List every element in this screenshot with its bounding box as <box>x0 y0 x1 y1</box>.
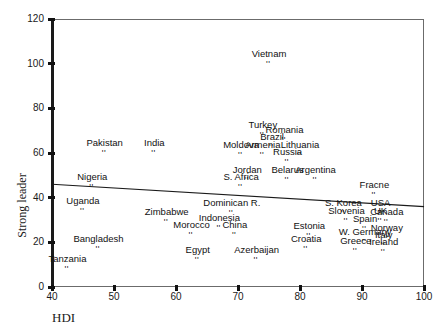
x-axis-title: HDI <box>52 310 75 326</box>
x-tick-label: 90 <box>342 291 382 302</box>
data-point-marker: '' <box>353 247 357 256</box>
data-point-marker: '' <box>151 149 155 158</box>
data-point-marker: '' <box>285 176 289 185</box>
data-point-marker: '' <box>381 248 385 257</box>
x-tick-label: 70 <box>218 291 258 302</box>
data-point-marker: '' <box>266 60 270 69</box>
y-tick-label: 100 <box>4 59 44 69</box>
data-point-label: India <box>144 138 165 148</box>
data-point-marker: '' <box>80 207 84 216</box>
data-point-marker: '' <box>313 176 317 185</box>
y-tick-mark <box>48 196 55 199</box>
x-tick-label: 80 <box>280 291 320 302</box>
data-point-marker: '' <box>65 265 69 274</box>
y-axis-title: Strong leader <box>15 156 30 256</box>
data-point-marker: '' <box>216 224 220 233</box>
data-point-label: Argentina <box>295 165 336 175</box>
scatter-chart: 020406080100120 405060708090100 ''Vietna… <box>0 0 438 332</box>
data-point-label: Croatia <box>291 234 322 244</box>
data-point-marker: '' <box>89 183 93 192</box>
y-tick-mark <box>48 152 55 155</box>
data-point-marker: '' <box>344 217 348 226</box>
data-point-label: Egypt <box>186 245 210 255</box>
data-point-marker: '' <box>254 256 258 265</box>
data-point-marker: '' <box>238 151 242 160</box>
data-point-label: Azerbaijan <box>234 245 279 255</box>
data-point-marker: '' <box>164 218 168 227</box>
data-point-label: Ireland <box>369 237 398 247</box>
x-tick-label: 100 <box>404 291 438 302</box>
y-tick-mark <box>48 241 55 244</box>
data-point-marker: '' <box>96 245 100 254</box>
data-point-label: Russia <box>273 147 302 157</box>
data-point-label: Greece <box>340 236 371 246</box>
data-point-label: Dominican R. <box>203 198 260 208</box>
data-point-label: S. Africa <box>223 172 258 182</box>
data-point-marker: '' <box>232 231 236 240</box>
y-tick-mark <box>48 107 55 110</box>
data-point-label: Vietnam <box>252 49 287 59</box>
data-point-label: Nigeria <box>77 172 107 182</box>
y-tick-label: 120 <box>4 14 44 24</box>
data-point-marker: '' <box>195 256 199 265</box>
data-point-label: Estonia <box>293 221 325 231</box>
x-tick-label: 50 <box>94 291 134 302</box>
data-point-marker: '' <box>102 149 106 158</box>
data-point-label: Fracne <box>360 180 390 190</box>
data-point-label: Zimbabwe <box>145 207 189 217</box>
data-point-label: Bangladesh <box>73 234 123 244</box>
data-point-marker: '' <box>303 245 307 254</box>
x-tick-label: 40 <box>32 291 72 302</box>
data-point-marker: '' <box>189 231 193 240</box>
y-tick-mark <box>48 18 55 21</box>
data-point-label: Pakistan <box>86 138 122 148</box>
data-point-label: China <box>222 220 247 230</box>
y-tick-mark <box>48 62 55 65</box>
data-point-label: Morocco <box>173 220 209 230</box>
data-point-marker: '' <box>238 183 242 192</box>
y-tick-label: 80 <box>4 103 44 113</box>
x-tick-label: 60 <box>156 291 196 302</box>
data-point-label: Tanzania <box>48 254 86 264</box>
data-point-label: Uganda <box>66 196 99 206</box>
data-point-marker: '' <box>260 151 264 160</box>
